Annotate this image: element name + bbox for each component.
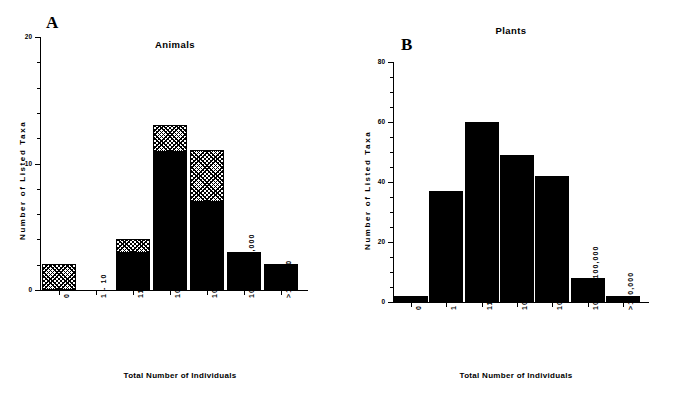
y-axis-minor-tick xyxy=(37,214,40,215)
y-axis-minor-tick xyxy=(390,107,393,108)
y-axis-tick-label: 20 xyxy=(361,238,385,245)
y-axis-minor-tick xyxy=(390,257,393,258)
x-axis-tick xyxy=(96,291,97,295)
bar-segment-solid xyxy=(116,252,150,290)
y-axis-minor-tick xyxy=(390,227,393,228)
x-axis-tick-label: 0 xyxy=(415,305,422,310)
bar xyxy=(116,239,150,290)
bar xyxy=(227,252,261,290)
x-axis-tick-label: >100,000 xyxy=(627,272,634,310)
x-axis-tick xyxy=(133,291,134,295)
x-axis-tick xyxy=(207,291,208,295)
bar xyxy=(500,155,534,302)
y-axis-tick-label: 20 xyxy=(8,33,32,40)
x-axis-tick-label: 0 xyxy=(63,293,70,298)
bar-segment-solid xyxy=(606,296,640,302)
bar xyxy=(42,265,76,290)
y-axis-minor-tick xyxy=(390,167,393,168)
bar-segment-hatched xyxy=(190,150,224,201)
bar xyxy=(465,122,499,302)
bar-segment-solid xyxy=(500,155,534,302)
x-axis-tick xyxy=(588,303,589,307)
y-axis-major-tick xyxy=(388,182,393,183)
x-axis-tick xyxy=(411,303,412,307)
x-axis-tick xyxy=(446,303,447,307)
bar-segment-solid xyxy=(535,176,569,302)
y-axis-major-tick xyxy=(388,122,393,123)
bar-segment-hatched xyxy=(116,239,150,252)
y-axis-minor-tick xyxy=(390,92,393,93)
y-axis-minor-tick xyxy=(390,77,393,78)
y-axis-tick-label: 80 xyxy=(361,58,385,65)
bar-segment-solid xyxy=(465,122,499,302)
bar-segment-solid xyxy=(153,150,187,290)
y-axis-tick-label: 40 xyxy=(361,178,385,185)
x-axis-tick xyxy=(517,303,518,307)
y-axis-minor-tick xyxy=(37,88,40,89)
y-axis-minor-tick xyxy=(390,197,393,198)
bar xyxy=(190,151,224,290)
bar-segment-solid xyxy=(264,264,298,290)
y-axis-minor-tick xyxy=(390,212,393,213)
bar-segment-solid xyxy=(394,296,428,302)
x-axis-tick xyxy=(623,303,624,307)
y-axis-line xyxy=(393,62,394,303)
bar-segment-solid xyxy=(190,201,224,290)
y-axis-major-tick xyxy=(388,242,393,243)
y-axis-major-tick xyxy=(35,37,40,38)
y-axis-tick-label: 60 xyxy=(361,118,385,125)
y-axis-line xyxy=(40,37,41,291)
y-axis-minor-tick xyxy=(37,138,40,139)
y-axis-minor-tick xyxy=(37,265,40,266)
x-axis-tick xyxy=(244,291,245,295)
y-axis-minor-tick xyxy=(37,239,40,240)
x-axis-tick xyxy=(482,303,483,307)
y-axis-minor-tick xyxy=(390,137,393,138)
bar-segment-hatched xyxy=(153,125,187,151)
y-axis-tick-label: 0 xyxy=(361,298,385,305)
bar xyxy=(429,191,463,302)
x-axis-tick-label: 1 - 10 xyxy=(100,274,107,299)
panel-plants: B Plants Number of Listed Taxa Total Num… xyxy=(341,0,681,397)
bar xyxy=(571,278,605,302)
bar-segment-solid xyxy=(429,191,463,302)
x-axis-tick xyxy=(552,303,553,307)
bar xyxy=(264,265,298,290)
figure-root: A Animals Number of Listed Taxa Total Nu… xyxy=(0,0,681,397)
plot-area-plants: 02040608001 - 1011 - 100101-10001001-10,… xyxy=(341,0,681,397)
panel-animals: A Animals Number of Listed Taxa Total Nu… xyxy=(0,0,340,397)
plot-area-animals: 0102001 - 1011 - 100101-10001001-10,0001… xyxy=(0,0,340,397)
y-axis-minor-tick xyxy=(37,189,40,190)
y-axis-tick-label: 0 xyxy=(8,286,32,293)
y-axis-major-tick xyxy=(388,62,393,63)
x-axis-tick xyxy=(170,291,171,295)
y-axis-major-tick xyxy=(35,164,40,165)
bar xyxy=(153,126,187,290)
x-axis-tick xyxy=(281,291,282,295)
y-axis-major-tick xyxy=(388,302,393,303)
y-axis-minor-tick xyxy=(390,287,393,288)
x-axis-tick xyxy=(59,291,60,295)
y-axis-minor-tick xyxy=(37,62,40,63)
y-axis-minor-tick xyxy=(390,272,393,273)
bar xyxy=(606,296,640,302)
bar-segment-hatched xyxy=(42,264,76,290)
bar-segment-solid xyxy=(571,278,605,302)
bar xyxy=(394,296,428,302)
y-axis-minor-tick xyxy=(390,152,393,153)
bar xyxy=(535,176,569,302)
y-axis-tick-label: 10 xyxy=(8,160,32,167)
y-axis-minor-tick xyxy=(37,113,40,114)
bar-segment-solid xyxy=(227,252,261,290)
y-axis-major-tick xyxy=(35,290,40,291)
